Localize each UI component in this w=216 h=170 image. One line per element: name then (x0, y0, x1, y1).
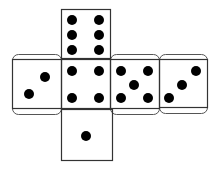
pip-icon (94, 45, 104, 55)
pip-icon (24, 89, 34, 99)
pip-icon (94, 66, 104, 76)
pip-icon (116, 93, 126, 103)
die-face-1 (62, 110, 113, 161)
dice-net-diagram (0, 0, 216, 170)
pip-icon (143, 93, 153, 103)
face-border (13, 60, 62, 109)
pip-icon (94, 93, 104, 103)
dice-net-svg (0, 0, 216, 170)
die-face-6 (62, 10, 111, 59)
pip-icon (191, 66, 201, 76)
pip-icon (116, 66, 126, 76)
pip-icon (67, 66, 77, 76)
pip-icon (177, 80, 187, 90)
die-face-4 (62, 60, 111, 109)
pip-icon (81, 131, 91, 141)
pip-icon (164, 93, 174, 103)
pip-icon (143, 66, 153, 76)
pip-icon (129, 80, 139, 90)
pip-icon (94, 15, 104, 25)
pip-icon (67, 15, 77, 25)
pip-icon (67, 93, 77, 103)
pip-icon (67, 45, 77, 55)
pip-icon (67, 30, 77, 40)
pip-icon (94, 30, 104, 40)
die-face-2 (13, 60, 62, 109)
pip-icon (40, 72, 50, 82)
die-face-3 (160, 60, 208, 108)
die-face-5 (111, 60, 160, 109)
